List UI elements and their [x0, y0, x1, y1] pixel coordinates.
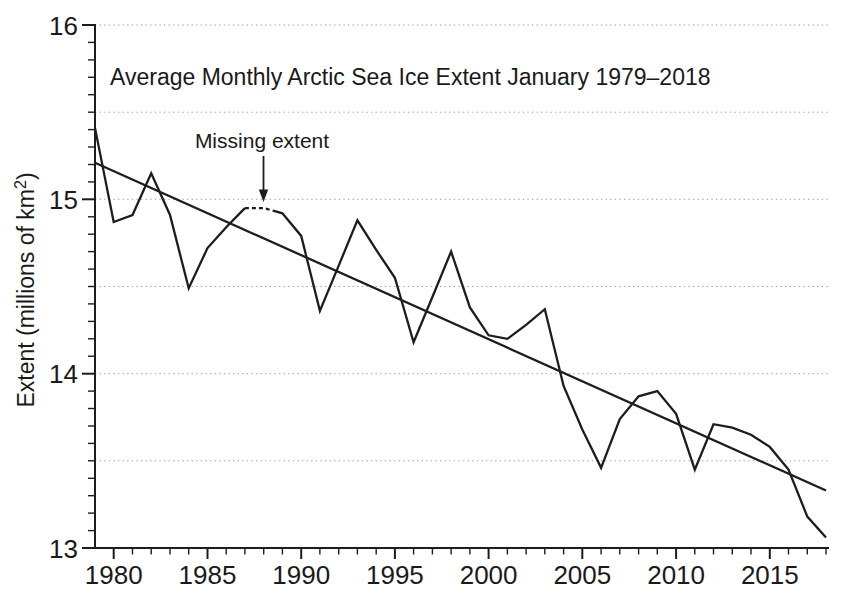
x-tick-label: 2005 — [553, 560, 611, 590]
x-tick-label: 2010 — [647, 560, 705, 590]
x-tick-label: 2000 — [460, 560, 518, 590]
x-tick-label: 2015 — [741, 560, 799, 590]
y-tick-label: 14 — [49, 359, 78, 389]
gridlines — [95, 25, 829, 461]
y-axis-label: Extent (millions of km2) — [11, 172, 39, 407]
x-tick-label: 1995 — [366, 560, 424, 590]
y-axis-label-close: ) — [13, 172, 39, 180]
x-tick-label: 1985 — [179, 560, 237, 590]
arrow-head-icon — [259, 190, 268, 203]
missing-extent-label: Missing extent — [195, 129, 329, 152]
axes: 1314151619801985199019952000200520102015 — [49, 11, 829, 591]
y-tick-label: 13 — [49, 534, 78, 564]
sea-ice-extent-line — [273, 211, 826, 538]
y-tick-label: 15 — [49, 185, 78, 215]
data-series — [95, 128, 826, 538]
trend-line — [95, 163, 826, 491]
chart-title: Average Monthly Arctic Sea Ice Extent Ja… — [110, 64, 711, 90]
y-axis-label-base: Extent (millions of km — [13, 189, 39, 408]
y-axis-label-superscript: 2 — [11, 180, 29, 189]
y-tick-label: 16 — [49, 11, 78, 41]
sea-ice-extent-figure: 1314151619801985199019952000200520102015… — [0, 0, 844, 602]
x-tick-label: 1990 — [272, 560, 330, 590]
missing-extent-dashed-segment — [245, 208, 273, 211]
missing-extent-arrow — [259, 156, 268, 202]
x-tick-label: 1980 — [85, 560, 143, 590]
sea-ice-extent-chart: 1314151619801985199019952000200520102015… — [0, 0, 844, 602]
